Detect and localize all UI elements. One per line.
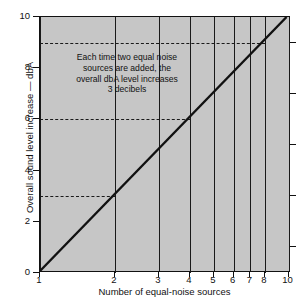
y-tick-right-3 <box>290 195 296 196</box>
chart-figure: 10 8 6 4 2 0 1 2 3 4 5 6 7 8 10 Overall … <box>0 0 308 307</box>
annotation-line-3: overall dbA level increases <box>52 74 202 85</box>
annotation-line-2: sources are added, the <box>52 63 202 74</box>
y-tick-10 <box>33 16 39 17</box>
y-tick-right-5 <box>290 144 296 145</box>
chart-annotation: Each time two equal noise sources are ad… <box>52 52 202 95</box>
y-tick-right-7 <box>290 93 296 94</box>
x-axis-title: Number of equal-noise sources <box>39 286 290 297</box>
x-tick-label-8: 8 <box>254 274 274 285</box>
y-tick-label-10: 10 <box>19 10 30 21</box>
x-tick-label-1: 1 <box>29 274 49 285</box>
x-tick-label-10: 10 <box>278 274 298 285</box>
annotation-line-4: 3 decibels <box>52 84 202 95</box>
y-tick-right-9 <box>290 42 296 43</box>
y-axis-title: Overall sound level increase — dbA <box>24 23 35 253</box>
x-tick-label-3: 3 <box>148 274 168 285</box>
x-tick-label-5: 5 <box>203 274 223 285</box>
x-tick-label-2: 2 <box>104 274 124 285</box>
y-tick-right-1 <box>290 246 296 247</box>
annotation-line-1: Each time two equal noise <box>52 52 202 63</box>
x-tick-label-4: 4 <box>179 274 199 285</box>
